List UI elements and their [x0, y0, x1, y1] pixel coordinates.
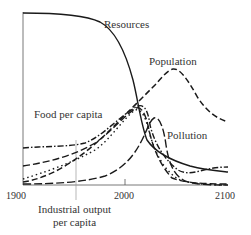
series-pollution: [23, 118, 228, 185]
label-pollution: Pollution: [167, 129, 207, 141]
x-tick-label-2100: 2100: [215, 190, 235, 201]
label-industrial-output-line2: per capita: [53, 216, 96, 228]
x-tick-label-1900: 1900: [6, 190, 26, 201]
label-industrial-output-line1: Industrial output: [38, 203, 111, 215]
series-population: [23, 69, 228, 182]
label-food-per-capita: Food per capita: [34, 108, 102, 120]
label-resources: Resources: [104, 18, 149, 30]
series-industrial-output: [23, 110, 228, 185]
label-population: Population: [149, 55, 197, 67]
x-tick-label-2000: 2000: [114, 190, 134, 201]
series-resources: [23, 13, 228, 172]
